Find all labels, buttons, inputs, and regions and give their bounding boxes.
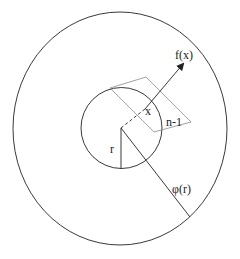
diagram-canvas: f(x) x n-1 r φ(r) [0,0,240,259]
label-x: x [145,104,151,118]
label-n-minus-1: n-1 [166,115,182,129]
label-f-x: f(x) [175,48,193,62]
outer-circle [13,12,227,245]
label-phi-r: φ(r) [172,182,191,196]
dashed-segment [121,109,145,128]
phi-r-line [121,128,190,217]
label-r: r [110,142,114,156]
fx-arrow [145,64,183,109]
